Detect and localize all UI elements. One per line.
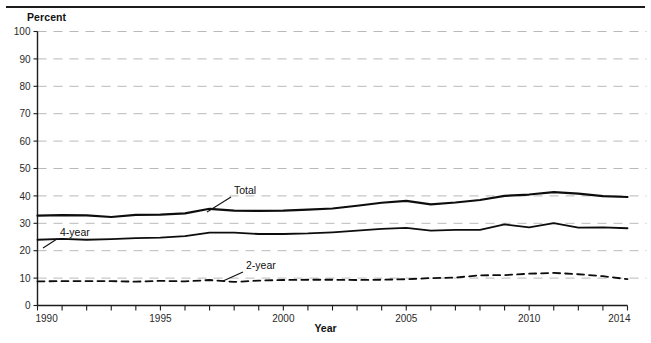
y-tick-label: 90 [19, 54, 31, 65]
y-tick-label: 40 [19, 191, 31, 202]
data-series-group [38, 192, 628, 282]
plot-area: 0102030405060708090100 19901995200020052… [0, 0, 651, 343]
series-annotation-four-year: 4-year [60, 226, 90, 238]
series-line-4-year [38, 223, 628, 240]
y-tick-label: 50 [19, 163, 31, 174]
y-tick-label: 20 [19, 245, 31, 256]
series-annotation-total: Total [234, 184, 256, 196]
series-annotation-two-year: 2-year [246, 259, 276, 271]
y-tick-labels-group: 0102030405060708090100 [14, 26, 31, 311]
y-tick-label: 60 [19, 136, 31, 147]
y-tick-label: 10 [19, 273, 31, 284]
chart-figure: Percent 0102030405060708090100 199019952… [0, 0, 651, 343]
gridlines-group [38, 32, 647, 279]
tick-marks-group [34, 32, 628, 311]
leader-line-two-year [223, 272, 243, 281]
y-tick-label: 70 [19, 108, 31, 119]
y-tick-label: 80 [19, 81, 31, 92]
series-line-2-year [38, 273, 628, 282]
y-tick-label: 0 [25, 300, 31, 311]
y-tick-label: 100 [14, 26, 31, 37]
y-tick-label: 30 [19, 218, 31, 229]
x-axis-title: Year [0, 322, 651, 334]
